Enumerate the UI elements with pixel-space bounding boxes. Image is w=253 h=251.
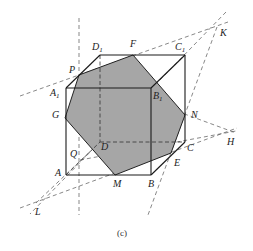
label-l: L xyxy=(34,206,41,217)
cube-section-diagram: D1 F C1 K P A1 B1 G N H Q D C E A M B L … xyxy=(0,0,253,251)
label-e: E xyxy=(173,157,180,168)
label-k: K xyxy=(219,27,228,38)
figure-caption: (c) xyxy=(117,228,127,238)
label-n: N xyxy=(190,109,199,120)
label-d1: D1 xyxy=(91,41,103,54)
label-c: C xyxy=(187,142,194,153)
label-m: M xyxy=(112,178,122,189)
label-c1: C1 xyxy=(175,41,185,54)
label-d: D xyxy=(100,141,109,152)
label-a1: A1 xyxy=(49,87,60,100)
label-a: A xyxy=(54,167,62,178)
label-q: Q xyxy=(70,148,78,159)
edge-b1-c1 xyxy=(151,55,185,88)
label-b: B xyxy=(148,178,154,189)
label-f: F xyxy=(129,38,137,49)
label-p: P xyxy=(68,64,75,75)
label-g: G xyxy=(52,109,59,120)
label-h: H xyxy=(226,136,235,147)
